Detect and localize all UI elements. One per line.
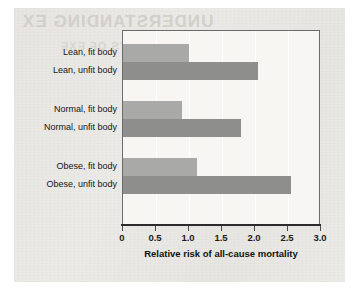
category-label-obese-unfit-body: Obese, unfit body — [4, 179, 122, 189]
tick-mark-2.0 — [254, 226, 255, 231]
category-label-normal-fit-body: Normal, fit body — [4, 104, 122, 114]
bar-lean-fit-body — [123, 44, 189, 62]
bars-layer — [123, 31, 319, 224]
bar-obese-unfit-body — [123, 176, 291, 194]
bar-chart: Lean, fit bodyLean, unfit bodyNormal, fi… — [0, 0, 359, 290]
x-axis-title: Relative risk of all-cause mortality — [122, 248, 320, 259]
tick-mark-0.5 — [155, 226, 156, 231]
tick-label-3.0: 3.0 — [313, 232, 326, 243]
tick-mark-3.0 — [320, 226, 321, 231]
category-label-lean-fit-body: Lean, fit body — [4, 47, 122, 57]
bar-obese-fit-body — [123, 158, 197, 176]
tick-mark-1.0 — [188, 226, 189, 231]
tick-label-1.5: 1.5 — [214, 232, 227, 243]
tick-mark-0 — [122, 226, 123, 231]
bar-normal-fit-body — [123, 101, 182, 119]
tick-label-0: 0 — [119, 232, 124, 243]
tick-label-1.0: 1.0 — [181, 232, 194, 243]
category-label-lean-unfit-body: Lean, unfit body — [4, 65, 122, 75]
tick-mark-2.5 — [287, 226, 288, 231]
tick-label-0.5: 0.5 — [148, 232, 161, 243]
tick-label-2.0: 2.0 — [247, 232, 260, 243]
tick-label-2.5: 2.5 — [280, 232, 293, 243]
category-label-normal-unfit-body: Normal, unfit body — [4, 122, 122, 132]
bar-normal-unfit-body — [123, 119, 241, 137]
figure-root: UNDERSTANDING EX HEALTH BENEFITS OF EXE … — [0, 0, 359, 290]
category-axis-labels: Lean, fit bodyLean, unfit bodyNormal, fi… — [0, 0, 122, 290]
category-label-obese-fit-body: Obese, fit body — [4, 161, 122, 171]
tick-mark-1.5 — [221, 226, 222, 231]
bar-lean-unfit-body — [123, 62, 258, 80]
plot-area — [122, 30, 320, 225]
